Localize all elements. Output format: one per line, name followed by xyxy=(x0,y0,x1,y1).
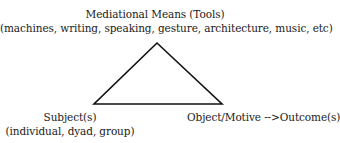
subject-examples: (individual, dyad, group) xyxy=(0,125,140,137)
subject-title: Subject(s) xyxy=(0,111,140,123)
object-motive-outcome-label: Object/Motive -->Outcome(s) xyxy=(187,111,340,123)
triangle-outline xyxy=(94,43,222,104)
